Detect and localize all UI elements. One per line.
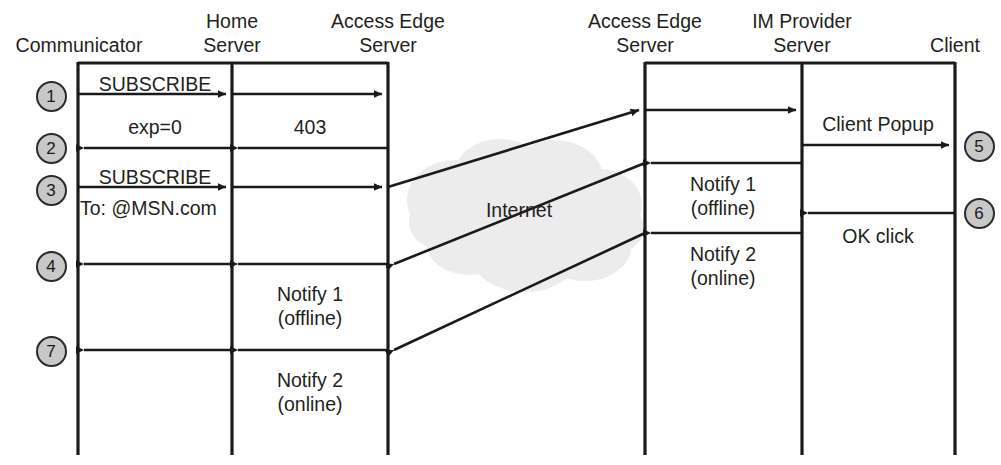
label-notify2-left: Notify 2: [277, 368, 343, 392]
step-badge-7: 7: [36, 336, 67, 367]
label-internet: Internet: [486, 198, 552, 222]
label-notify2-left-state: (online): [277, 392, 342, 416]
label-notify1-right: Notify 1: [690, 172, 756, 196]
label-notify1-left: Notify 1: [277, 282, 343, 306]
label-exp0: exp=0: [128, 115, 182, 139]
step-badge-2: 2: [36, 133, 67, 164]
step-badge-4: 4: [36, 251, 67, 282]
step-badge-3: 3: [36, 175, 67, 206]
header-access-edge-server-right: Access EdgeServer: [588, 9, 702, 57]
step-badge-5: 5: [964, 131, 995, 162]
label-subscribe-1: SUBSCRIBE: [99, 72, 212, 96]
label-notify1-left-state: (offline): [278, 306, 343, 330]
header-client: Client: [930, 33, 980, 57]
header-im-provider-server: IM ProviderServer: [752, 9, 852, 57]
header-home-server: HomeServer: [203, 9, 260, 57]
header-access-edge-server-left: Access EdgeServer: [331, 9, 445, 57]
label-notify1-right-state: (offline): [691, 196, 756, 220]
label-client-popup: Client Popup: [822, 112, 934, 136]
sequence-diagram: Communicator HomeServer Access EdgeServe…: [0, 0, 1001, 465]
label-notify2-right-state: (online): [690, 266, 755, 290]
label-ok-click: OK click: [842, 224, 914, 248]
step-badge-6: 6: [964, 198, 995, 229]
header-communicator: Communicator: [16, 33, 143, 57]
label-403: 403: [294, 115, 327, 139]
label-notify2-right: Notify 2: [690, 242, 756, 266]
label-subscribe-2: SUBSCRIBE: [99, 165, 212, 189]
label-to-msn: To: @MSN.com: [80, 196, 217, 220]
step-badge-1: 1: [36, 81, 67, 112]
